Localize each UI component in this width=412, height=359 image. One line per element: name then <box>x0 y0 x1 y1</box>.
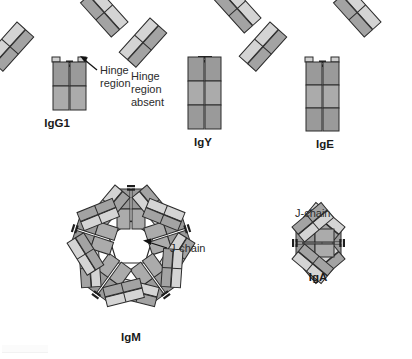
molecule-igm: IgM <box>60 185 203 343</box>
hinge-absent-label-line-2: region <box>131 83 162 95</box>
scan-artifact <box>2 345 48 353</box>
igm-fab-arm-left <box>161 248 183 287</box>
hinge-region-label-line-1: Hinge <box>100 64 129 76</box>
ige-fab-arm-right <box>333 0 381 37</box>
hinge-absent-label-line-1: Hinge <box>131 70 160 82</box>
igg1-fc-stem <box>53 62 86 110</box>
igy-fc-stem <box>188 57 221 129</box>
annotation-jchain-iga: J-chain <box>295 207 330 219</box>
jchain-iga-label: J-chain <box>295 207 330 219</box>
igy-label: IgY <box>194 136 212 148</box>
immunoglobulin-diagram: IgG1 IgY <box>0 0 412 359</box>
igy-fab-arm-right <box>213 0 261 33</box>
annotation-hinge-region-absent: Hinge region absent <box>131 70 164 108</box>
ige-label: IgE <box>316 138 334 150</box>
ige-fc-stem <box>306 62 339 131</box>
igg1-fab-arm-left <box>0 22 34 71</box>
igg1-fab-arm-right <box>80 0 128 37</box>
hinge-region-label-line-2: region <box>100 77 131 89</box>
igy-fab-arm-left <box>119 18 167 67</box>
figure-canvas: IgG1 IgY <box>0 0 412 359</box>
hinge-absent-label-line-3: absent <box>131 96 164 108</box>
iga-label: IgA <box>309 271 328 283</box>
igg1-label: IgG1 <box>44 117 70 129</box>
annotation-hinge-region: Hinge region <box>80 56 131 89</box>
igm-label: IgM <box>121 331 141 343</box>
molecule-ige: IgE <box>239 0 381 150</box>
jchain-igm-label: J-chain <box>170 242 205 254</box>
